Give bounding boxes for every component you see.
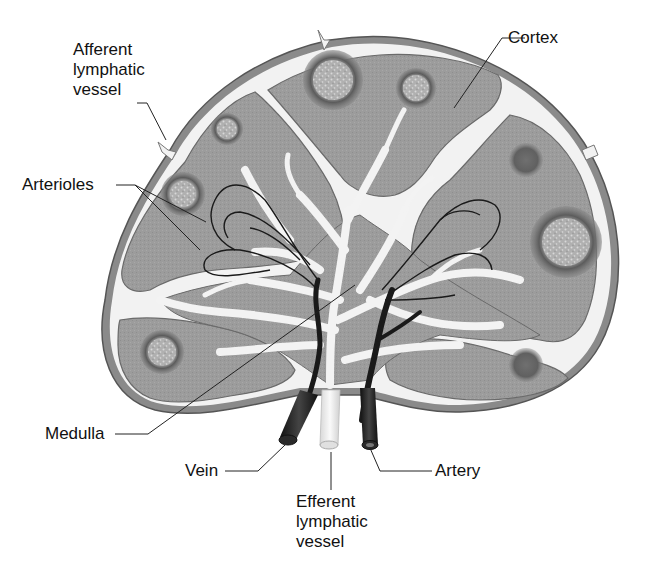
label-arterioles: Arterioles <box>22 175 94 195</box>
label-cortex: Cortex <box>508 28 558 48</box>
label-vein: Vein <box>185 461 218 481</box>
label-efferent-lymphatic-vessel: Efferent lymphatic vessel <box>296 492 368 552</box>
label-artery: Artery <box>435 461 480 481</box>
label-afferent-lymphatic-vessel: Afferent lymphatic vessel <box>73 40 145 100</box>
artery <box>360 388 378 450</box>
efferent-lymphatic-vessel <box>320 390 340 449</box>
label-medulla: Medulla <box>45 424 105 444</box>
